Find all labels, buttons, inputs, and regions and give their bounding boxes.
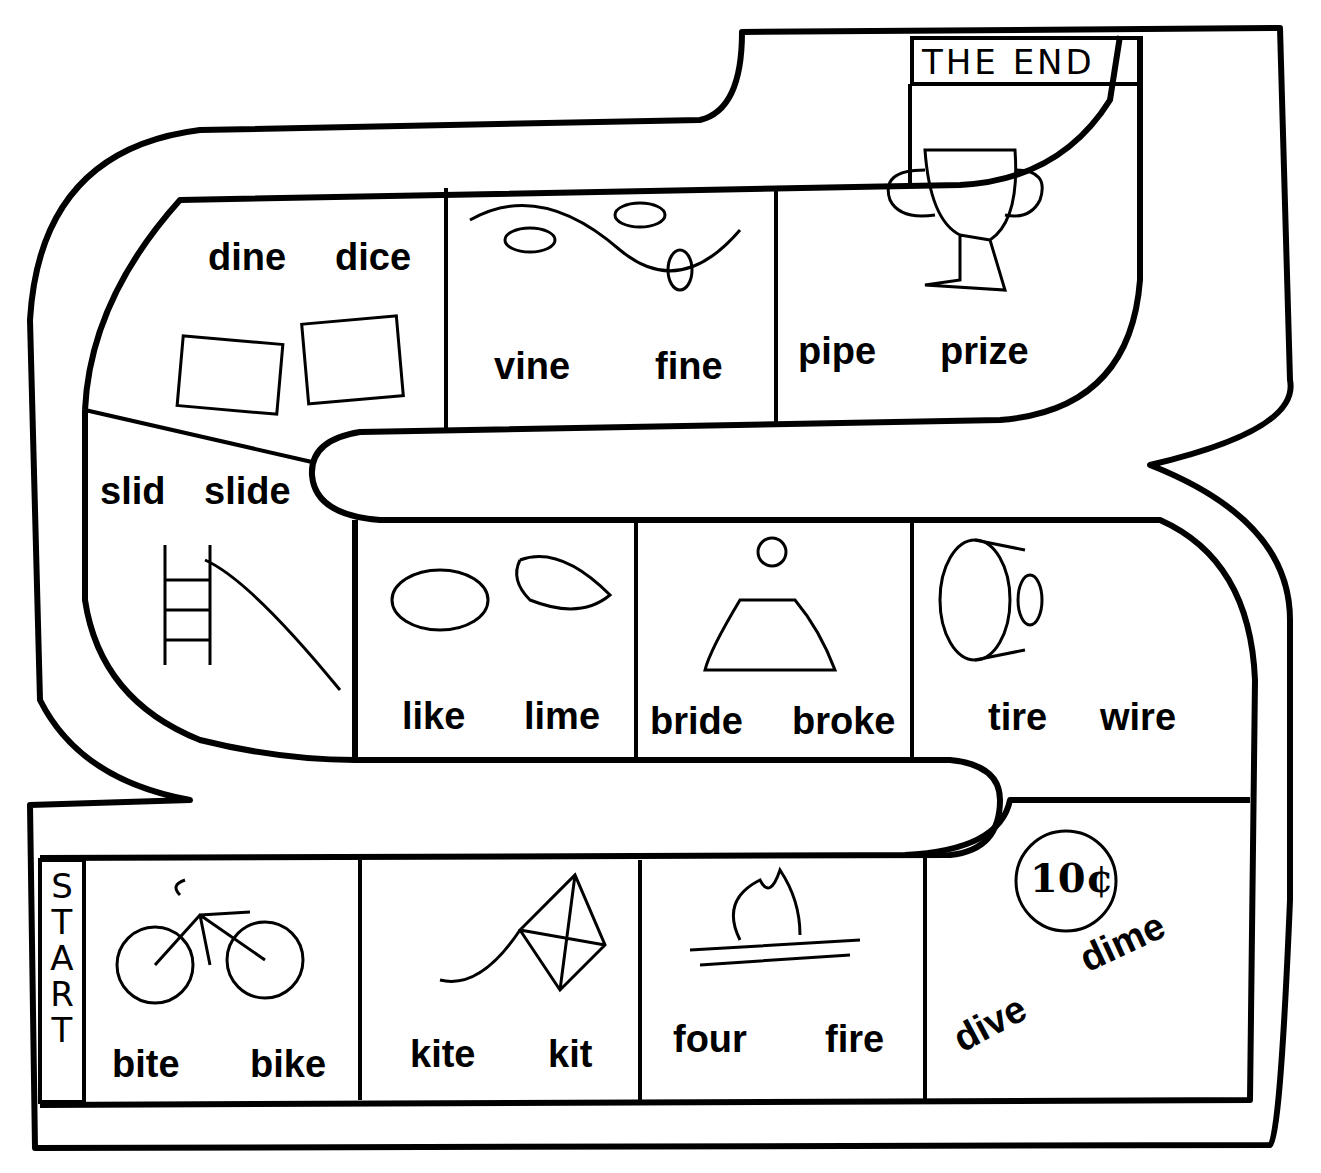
- game-board-outline: [0, 0, 1321, 1173]
- word-bike: bike: [250, 1045, 326, 1083]
- word-bite: bite: [112, 1045, 180, 1083]
- word-like: like: [402, 697, 465, 735]
- word-broke: broke: [792, 702, 895, 740]
- end-label: THE END: [922, 42, 1095, 82]
- word-prize: prize: [940, 332, 1029, 370]
- word-slide: slide: [204, 472, 291, 510]
- word-vine: vine: [494, 347, 570, 385]
- word-fine: fine: [655, 347, 723, 385]
- word-fire: fire: [825, 1020, 884, 1058]
- word-dine: dine: [208, 238, 286, 276]
- start-label: S T A R T: [42, 868, 82, 1048]
- word-kite: kite: [410, 1035, 475, 1073]
- word-kit: kit: [548, 1035, 592, 1073]
- dime-coin-icon: 10¢: [1030, 858, 1114, 898]
- word-pipe: pipe: [798, 332, 876, 370]
- word-slid: slid: [100, 472, 165, 510]
- word-lime: lime: [524, 697, 600, 735]
- word-dice: dice: [335, 238, 411, 276]
- word-wire: wire: [1100, 698, 1176, 736]
- word-tire: tire: [988, 698, 1047, 736]
- word-bride: bride: [650, 702, 743, 740]
- word-four: four: [673, 1020, 747, 1058]
